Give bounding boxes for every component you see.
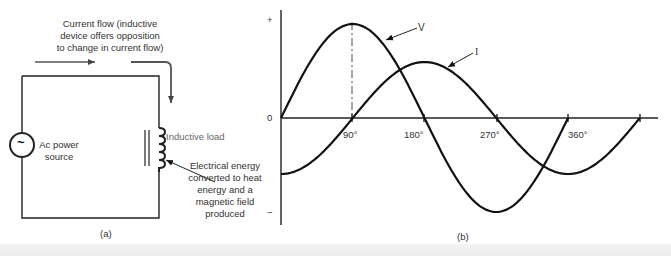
i-pointer-icon bbox=[448, 53, 473, 67]
v-label: V bbox=[418, 22, 425, 34]
ac-symbol: ~ bbox=[17, 137, 25, 149]
current-flow-line: Current flow (inductive bbox=[50, 18, 170, 30]
current-flow-label: Current flow (inductive device offers op… bbox=[50, 18, 170, 54]
y-plus-label: + bbox=[267, 14, 273, 26]
current-arrow-down-icon bbox=[131, 62, 171, 103]
energy-label-line: Electrical energy bbox=[180, 160, 270, 172]
source-label-line: Ac power bbox=[34, 139, 84, 151]
wire-top bbox=[22, 76, 159, 128]
load-label: Inductive load bbox=[166, 131, 225, 143]
energy-label-line: magnetic field bbox=[180, 196, 270, 208]
energy-label-line: energy and a bbox=[180, 184, 270, 196]
y-zero-label: 0 bbox=[267, 112, 272, 124]
energy-label-line: produced bbox=[180, 208, 270, 220]
current-flow-line: device offers opposition bbox=[50, 30, 170, 42]
caption-a: (a) bbox=[100, 228, 112, 240]
current-flow-line: to change in current flow) bbox=[50, 42, 170, 54]
x-tick-360: 360° bbox=[568, 129, 588, 141]
energy-label: Electrical energy converted to heat ener… bbox=[180, 160, 270, 220]
x-tick-90: 90° bbox=[343, 129, 357, 141]
v-pointer-icon bbox=[386, 28, 417, 40]
i-label: I bbox=[475, 46, 478, 58]
energy-label-line: converted to heat bbox=[180, 172, 270, 184]
bottom-band bbox=[0, 244, 671, 256]
source-label-line: source bbox=[34, 151, 84, 163]
caption-b: (b) bbox=[457, 231, 469, 243]
source-label: Ac power source bbox=[34, 139, 84, 163]
y-minus-label: − bbox=[267, 207, 273, 219]
graph-axes bbox=[281, 10, 658, 225]
inductor-coil-icon bbox=[159, 128, 165, 172]
x-tick-180: 180° bbox=[404, 129, 424, 141]
wire-bottom bbox=[22, 158, 159, 218]
x-tick-270: 270° bbox=[480, 129, 500, 141]
